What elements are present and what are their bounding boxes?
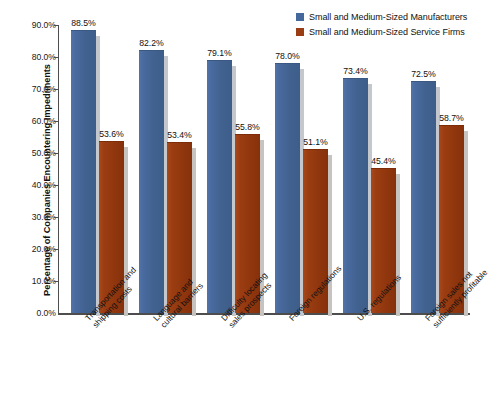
legend-item[interactable]: Small and Medium-Sized Service Firms [296, 26, 480, 37]
bar-fill [71, 30, 96, 313]
bar-fill [343, 78, 368, 313]
bar-value-label: 58.7% [439, 113, 464, 123]
bar-group: 73.4%45.4% [343, 25, 396, 313]
y-tick-mark [54, 249, 59, 250]
bar-value-label: 78.0% [275, 51, 300, 61]
legend-label: Small and Medium-Sized Service Firms [309, 27, 465, 37]
bar-group: 88.5%53.6% [71, 25, 124, 313]
y-tick-mark [54, 217, 59, 218]
bar-value-label: 73.4% [343, 66, 368, 76]
y-tick-label: 80.0% [16, 52, 56, 62]
y-tick-label: 30.0% [16, 212, 56, 222]
y-tick-mark [54, 57, 59, 58]
bar-value-label: 51.1% [303, 137, 328, 147]
y-tick-label: 50.0% [16, 148, 56, 158]
y-tick-mark [54, 153, 59, 154]
x-axis-line [58, 313, 470, 315]
y-tick-mark [54, 121, 59, 122]
bar-value-label: 45.4% [371, 156, 396, 166]
y-tick-mark [54, 89, 59, 90]
bar[interactable]: 73.4% [343, 78, 368, 313]
y-axis-tick-labels: 90.0%80.0%70.0%60.0%50.0%40.0%30.0%20.0%… [14, 0, 56, 396]
y-tick-label: 0.0% [16, 308, 56, 318]
bar-value-label: 72.5% [411, 69, 436, 79]
legend-swatch-icon [296, 28, 304, 36]
bar[interactable]: 88.5% [71, 30, 96, 313]
bar-shadow [396, 174, 400, 316]
y-tick-label: 90.0% [16, 20, 56, 30]
y-tick-label: 60.0% [16, 116, 56, 126]
legend: Small and Medium-Sized ManufacturersSmal… [296, 11, 480, 41]
bar-value-label: 88.5% [71, 18, 96, 28]
legend-label: Small and Medium-Sized Manufacturers [309, 12, 467, 22]
bar-value-label: 53.4% [167, 130, 192, 140]
y-axis-line [58, 25, 59, 314]
y-tick-mark [54, 25, 59, 26]
bar[interactable]: 72.5% [411, 81, 436, 313]
bar-value-label: 53.6% [99, 129, 124, 139]
bar-value-label: 55.8% [235, 122, 260, 132]
y-tick-label: 70.0% [16, 84, 56, 94]
x-axis-category-labels: Transportation andshipping costsLanguage… [58, 316, 470, 396]
y-tick-label: 20.0% [16, 244, 56, 254]
y-tick-mark [54, 281, 59, 282]
legend-swatch-icon [296, 13, 304, 21]
y-tick-mark [54, 185, 59, 186]
bar-fill [411, 81, 436, 313]
bar-shadow [328, 155, 332, 316]
y-tick-label: 40.0% [16, 180, 56, 190]
y-tick-label: 10.0% [16, 276, 56, 286]
bar-value-label: 82.2% [139, 38, 164, 48]
bar-value-label: 79.1% [207, 48, 232, 58]
bar-group: 72.5%58.7% [411, 25, 464, 313]
legend-item[interactable]: Small and Medium-Sized Manufacturers [296, 11, 480, 22]
